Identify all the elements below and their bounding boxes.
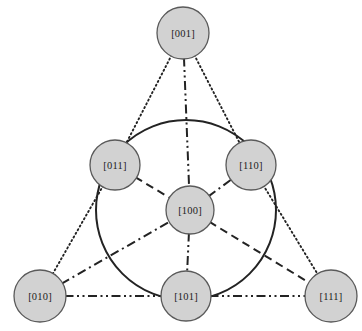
- stereographic-projection-figure: [001][011][110][100][010][101][111]: [0, 0, 362, 331]
- edge-100-101: [187, 232, 189, 272]
- edge-100-111: [209, 222, 310, 284]
- edge-011-100: [135, 177, 171, 198]
- edge-001-100: [184, 57, 189, 187]
- edge-100-110: [208, 179, 232, 197]
- node-011[interactable]: [011]: [90, 140, 140, 190]
- edge-001-011: [126, 55, 172, 144]
- node-010[interactable]: [010]: [14, 270, 66, 322]
- node-110[interactable]: [110]: [226, 140, 276, 190]
- edge-011-010: [52, 185, 103, 274]
- node-label: [010]: [28, 291, 52, 302]
- node-label: [101]: [174, 291, 198, 302]
- node-label: [110]: [239, 160, 262, 171]
- nodes-layer: [001][011][110][100][010][101][111]: [14, 7, 357, 322]
- node-001[interactable]: [001]: [157, 7, 209, 59]
- node-label: [111]: [320, 291, 343, 302]
- diagram-canvas: [001][011][110][100][010][101][111]: [0, 0, 362, 331]
- node-label: [001]: [171, 28, 195, 39]
- node-111[interactable]: [111]: [305, 270, 357, 322]
- edge-001-110: [194, 55, 240, 144]
- node-label: [011]: [103, 160, 126, 171]
- edge-110-111: [263, 185, 318, 275]
- node-101[interactable]: [101]: [161, 271, 211, 321]
- node-label: [100]: [178, 205, 202, 216]
- node-100[interactable]: [100]: [166, 186, 214, 234]
